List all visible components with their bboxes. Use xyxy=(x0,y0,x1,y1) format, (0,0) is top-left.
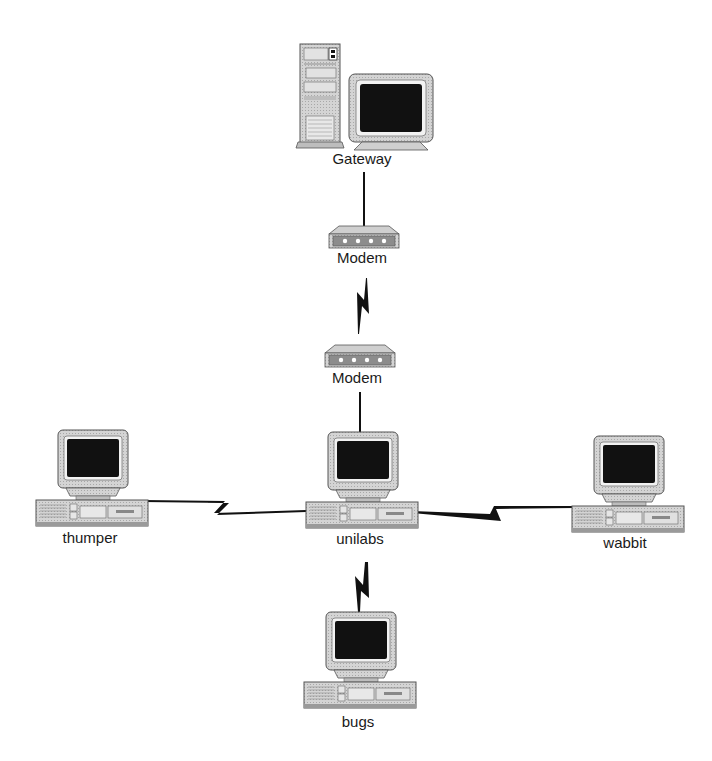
node-bugs[interactable] xyxy=(304,612,416,708)
node-thumper[interactable] xyxy=(36,430,148,526)
label-bugs: bugs xyxy=(298,713,418,730)
label-unilabs: unilabs xyxy=(300,530,420,547)
label-thumper: thumper xyxy=(30,529,150,546)
node-unilabs[interactable] xyxy=(306,432,418,528)
link-thumper-unilabs-wireless xyxy=(143,500,306,515)
link-modem1-modem2-wireless xyxy=(357,278,369,334)
node-modem2[interactable] xyxy=(325,345,395,367)
link-unilabs-wabbit-wireless xyxy=(412,506,574,521)
link-unilabs-bugs-wireless xyxy=(355,562,369,612)
label-modem2: Modem xyxy=(297,369,417,386)
label-gateway: Gateway xyxy=(302,150,422,167)
label-modem1: Modem xyxy=(302,249,422,266)
node-gateway[interactable] xyxy=(296,44,433,150)
label-wabbit: wabbit xyxy=(565,534,685,551)
node-modem1[interactable] xyxy=(329,226,399,248)
node-wabbit[interactable] xyxy=(572,436,684,532)
